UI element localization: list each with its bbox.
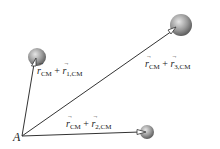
vector-label-2: rCM + r2,CM bbox=[66, 119, 112, 131]
vector-label-3: rCM + r3,CM bbox=[145, 59, 191, 71]
vector-label-1: rCM + r1,CM bbox=[37, 66, 83, 78]
vector-line-1 bbox=[22, 64, 34, 136]
sphere-3 bbox=[170, 14, 192, 36]
point-a-label: A bbox=[13, 130, 20, 145]
vector-line-2 bbox=[22, 132, 140, 136]
